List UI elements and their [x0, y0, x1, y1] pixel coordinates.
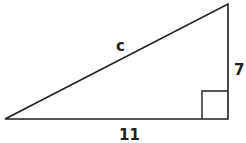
right-angle-marker — [202, 91, 228, 119]
vertical-leg-label: 7 — [234, 61, 244, 79]
triangle-diagram: c 7 11 — [0, 0, 246, 143]
horizontal-leg-label: 11 — [119, 126, 140, 143]
hypotenuse-label: c — [116, 37, 125, 55]
right-triangle — [5, 4, 228, 119]
